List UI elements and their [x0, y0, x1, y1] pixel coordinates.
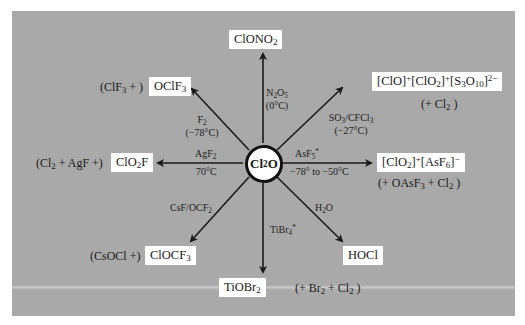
reagent-agf2: AgF2: [195, 147, 216, 160]
center-o: O: [268, 156, 278, 172]
byproduct-down: (+ Br2 + Cl2 ): [295, 281, 361, 295]
product-clo2f: ClO2F: [111, 153, 153, 172]
reagent-tibr4: TiBr4*: [270, 223, 296, 236]
reagent-csf-ocf2: CsF/OCF2: [170, 201, 212, 214]
reagent-left-temp: 70°C: [196, 165, 217, 178]
byproduct-down-left: (CsOCl +): [90, 249, 140, 263]
product-oclf3: OClF3: [149, 77, 191, 96]
product-clo2-asf6: [ClO2]+[AsF6]−: [377, 153, 465, 172]
product-text: ClONO: [234, 32, 273, 46]
product-hocl: HOCl: [343, 246, 383, 265]
byproduct-left: (Cl2 + AgF +): [36, 156, 103, 170]
reagent-temp: (−27°C): [321, 124, 381, 137]
reagent-h2o: H2O: [315, 201, 333, 214]
product-clocf3: ClOCF3: [145, 246, 196, 265]
reagent-f2: F2: [180, 113, 224, 126]
product-clono2: ClONO2: [229, 30, 282, 49]
reagent-up-left: F2 (−78°C): [180, 113, 224, 139]
reagent-up: N2O5 (0°C): [262, 86, 292, 112]
reagent-temp: (0°C): [262, 99, 292, 112]
byproduct-up-right: (+ Cl2 ): [421, 97, 457, 111]
reagent-so3-cfcl3: SO3/CFCl3: [321, 111, 381, 124]
reagent-asf5: AsF5*: [295, 147, 325, 160]
byproduct-right: (+ OAsF3 + Cl2 ): [378, 176, 460, 190]
center-cl: Cl: [250, 156, 263, 172]
byproduct-up-left: (ClF3 + ): [100, 80, 143, 94]
reagent-right-temp: −78° to −50°C: [290, 165, 370, 178]
center-compound-cl2o: Cl2O: [245, 145, 283, 183]
product-clo-clo2-s3o10: [ClO]+[ClO2]+[S3O10]2−: [372, 72, 502, 91]
reagent-temp: (−78°C): [180, 126, 224, 139]
subscript: 2: [273, 37, 278, 47]
reagent-n2o5: N2O5: [262, 86, 292, 99]
product-tiobr2: TiOBr2: [219, 278, 266, 297]
reagent-up-right: SO3/CFCl3 (−27°C): [321, 111, 381, 137]
